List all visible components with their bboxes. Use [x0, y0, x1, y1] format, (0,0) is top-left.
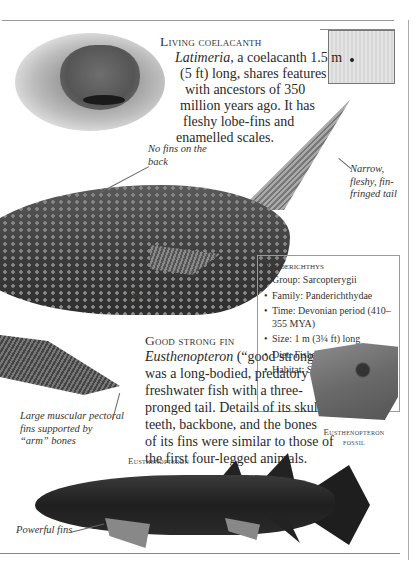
infobox-item: Group: Sarcopterygii — [264, 274, 393, 287]
coelacanth-heading: Living coelacanth — [160, 34, 262, 50]
eusthenopteron-label: Eusthenopteron — [128, 456, 189, 466]
infobox-item: Time: Devonian period (410–355 MYA) — [264, 305, 393, 330]
location-marker-icon — [350, 58, 354, 62]
good-strong-fin-heading: Good strong fin — [145, 333, 235, 349]
coelacanth-line-1: Latimeria, a coelacanth 1.5 m — [175, 50, 342, 67]
infobox-item: Family: Panderichthydae — [264, 290, 393, 303]
eusthenopteron-fossil-photo — [310, 343, 398, 420]
panderichthys-label: Panderichthys — [132, 291, 188, 301]
gsf-line-2: was a long-bodied, predatory — [145, 366, 308, 383]
latimeria-name: Latimeria — [175, 50, 230, 65]
eusthenopteron-name: Eusthenopteron — [145, 349, 233, 364]
infobox-item: Size: 1 m (3¼ ft) long — [264, 333, 393, 346]
coelacanth-line-3: with ancestors of 350 — [185, 82, 305, 99]
fossil-label: Eusthenopteron fossil — [306, 427, 402, 447]
right-rule — [408, 20, 409, 560]
top-rule — [2, 20, 394, 21]
pectoral-annotation: Large muscular pectoral fins supported b… — [20, 410, 124, 448]
panderichthys-pectoral-fin — [0, 335, 120, 395]
gsf-line-4: pronged tail. Details of its skull, — [145, 400, 325, 417]
bottom-rule — [0, 553, 400, 554]
infobox-title: Panderichthys — [264, 260, 393, 271]
coelacanth-line-2: (5 ft) long, shares features — [180, 66, 327, 83]
powerful-fins-annotation: Powerful fins — [16, 524, 72, 537]
coelacanth-line-4: million years ago. It has — [180, 98, 315, 115]
coelacanth-mouth — [83, 95, 125, 105]
tail-annotation: Narrow, fleshy, fin- fringed tail — [350, 163, 397, 201]
no-fins-annotation: No fins on the back — [148, 143, 207, 168]
gsf-line-3: freshwater fish with a three- — [145, 383, 303, 400]
gsf-line-5: teeth, backbone, and the bones — [145, 417, 317, 434]
coelacanth-line-5: fleshy lobe-fins and — [183, 114, 294, 131]
